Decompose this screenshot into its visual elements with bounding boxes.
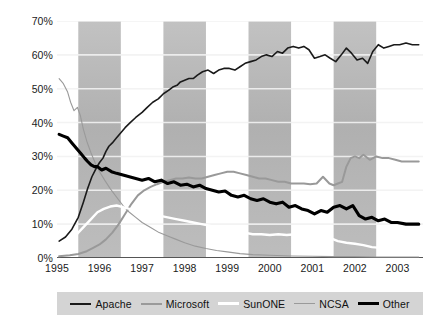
legend-label: Microsoft (166, 298, 210, 310)
x-tick-label-2001: 2001 (300, 262, 324, 274)
y-tick-label-30: 30% (3, 150, 53, 162)
legend-swatch-icon (358, 302, 379, 305)
x-tick-label-1998: 1998 (173, 262, 197, 274)
y-tick-label-60: 60% (3, 49, 53, 61)
y-axis: 70%60%50%40%30%20%10%0% (0, 0, 53, 329)
legend-label: SunONE (243, 298, 285, 310)
x-axis: 199519961997199819992000200120022003 (0, 262, 433, 278)
legend-item-other[interactable]: Other (358, 298, 410, 310)
chart-legend: ApacheMicrosoftSunONENCSAOther (57, 292, 423, 315)
y-tick-label-50: 50% (3, 83, 53, 95)
legend-swatch-icon (141, 303, 162, 305)
plot-area (57, 21, 423, 258)
y-tick-label-10: 10% (3, 218, 53, 230)
legend-label: NCSA (319, 298, 349, 310)
y-tick-label-40: 40% (3, 117, 53, 129)
x-tick-label-1995: 1995 (45, 262, 69, 274)
legend-swatch-icon (294, 303, 315, 304)
x-tick-label-2002: 2002 (343, 262, 367, 274)
x-tick-label-1997: 1997 (130, 262, 154, 274)
legend-item-apache[interactable]: Apache (70, 298, 131, 310)
legend-item-microsoft[interactable]: Microsoft (141, 298, 210, 310)
legend-label: Apache (95, 298, 131, 310)
x-tick-label-1996: 1996 (88, 262, 112, 274)
legend-swatch-icon (218, 302, 239, 305)
legend-item-ncsa[interactable]: NCSA (294, 298, 349, 310)
legend-label: Other (383, 298, 410, 310)
x-tick-label-2003: 2003 (386, 262, 410, 274)
legend-item-sunone[interactable]: SunONE (218, 298, 285, 310)
y-tick-label-20: 20% (3, 184, 53, 196)
legend-swatch-icon (70, 303, 91, 305)
background-band-1 (163, 21, 206, 258)
plot-svg (57, 21, 423, 258)
x-tick-label-1999: 1999 (215, 262, 239, 274)
x-tick-label-2000: 2000 (258, 262, 282, 274)
server-market-share-chart: 70%60%50%40%30%20%10%0% 1995199619971998… (0, 0, 433, 329)
y-tick-label-70: 70% (3, 15, 53, 27)
